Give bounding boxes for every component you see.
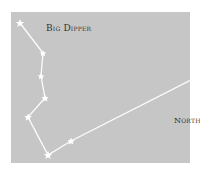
big-dipper-diagram bbox=[11, 12, 190, 163]
star-icon bbox=[67, 138, 74, 145]
star-icon bbox=[44, 151, 52, 159]
diagram-title: Big Dipper bbox=[46, 23, 91, 33]
north-label: North bbox=[174, 116, 200, 125]
constellation-line bbox=[20, 23, 190, 155]
constellation-drawing bbox=[11, 12, 190, 163]
